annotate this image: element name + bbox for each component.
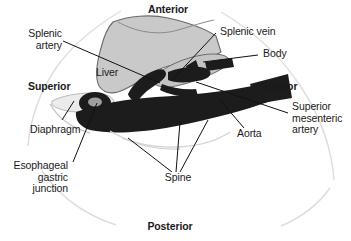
structure-label-splenic-vein: Splenic vein [220, 26, 310, 38]
orientation-label-superior: Superior [28, 81, 98, 93]
structure-label-liver: Liver [96, 67, 146, 79]
leader-spine-left [128, 138, 172, 172]
orientation-label-inferior: Inferior [262, 81, 328, 93]
structure-label-splenic-artery: Splenic artery [2, 28, 62, 51]
structure-label-spine: Spine [150, 172, 206, 184]
anatomy-diagram-page: Anterior Splenic artery Splenic vein Bod… [0, 0, 351, 241]
esophagogastric-junction-shape [79, 92, 111, 114]
structure-label-aorta: Aorta [237, 128, 283, 140]
orientation-label-posterior: Posterior [128, 221, 212, 233]
structure-label-diaphragm: Diaphragm [30, 124, 100, 136]
spine-shape [110, 131, 230, 149]
structure-label-esophageal-gastric-junction: Esophageal gastric junction [0, 160, 68, 195]
orientation-label-anterior: Anterior [130, 4, 206, 16]
structure-label-body: Body [263, 48, 313, 60]
structure-label-superior-mesenteric-artery: Superior mesenteric artery [292, 101, 350, 136]
